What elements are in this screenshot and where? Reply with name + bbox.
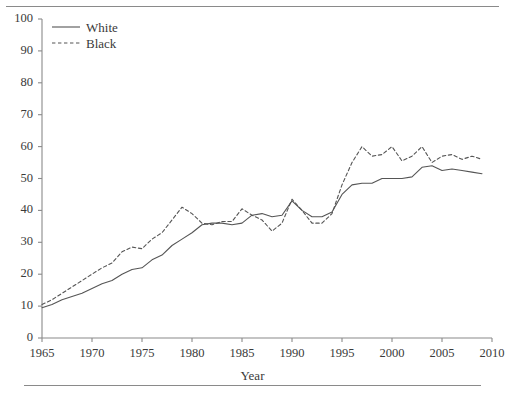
axis-group bbox=[38, 19, 492, 342]
series-line-black bbox=[42, 147, 482, 305]
y-axis-tick-label: 10 bbox=[3, 299, 33, 312]
y-axis-tick-label: 0 bbox=[3, 331, 33, 344]
y-axis-ticks bbox=[38, 19, 42, 338]
x-axis-ticks bbox=[42, 338, 492, 342]
line-chart-plot bbox=[0, 0, 505, 396]
y-axis-tick-label: 20 bbox=[3, 267, 33, 280]
x-axis-tick-label: 1970 bbox=[69, 347, 115, 360]
y-axis-tick-label: 60 bbox=[3, 140, 33, 153]
y-axis-tick-label: 50 bbox=[3, 172, 33, 185]
y-axis-tick-label: 30 bbox=[3, 235, 33, 248]
y-axis-tick-label: 40 bbox=[3, 203, 33, 216]
x-axis-tick-label: 2010 bbox=[469, 347, 505, 360]
x-axis-tick-label: 1990 bbox=[269, 347, 315, 360]
x-axis-tick-label: 1995 bbox=[319, 347, 365, 360]
x-axis-tick-label: 2005 bbox=[419, 347, 465, 360]
figure-container: 0102030405060708090100 19651970197519801… bbox=[0, 0, 505, 396]
y-axis-tick-label: 80 bbox=[3, 76, 33, 89]
series-line-white bbox=[42, 166, 482, 308]
x-axis-tick-label: 1985 bbox=[219, 347, 265, 360]
legend-label-black: Black bbox=[86, 37, 116, 50]
x-axis-tick-label: 1980 bbox=[169, 347, 215, 360]
y-axis-tick-label: 90 bbox=[3, 44, 33, 57]
data-series-group bbox=[42, 147, 482, 308]
y-axis-tick-label: 70 bbox=[3, 108, 33, 121]
x-axis-title: Year bbox=[0, 368, 505, 384]
y-axis-tick-label: 100 bbox=[3, 12, 33, 25]
x-axis-tick-label: 2000 bbox=[369, 347, 415, 360]
x-axis-tick-label: 1965 bbox=[19, 347, 65, 360]
legend-label-white: White bbox=[86, 21, 118, 34]
x-axis-tick-label: 1975 bbox=[119, 347, 165, 360]
legend-line-samples bbox=[52, 27, 80, 43]
